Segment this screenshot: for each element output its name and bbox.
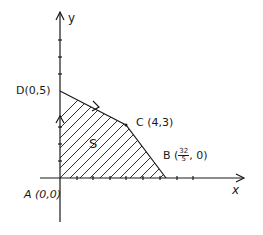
vertex-b-fraction: 325 <box>178 148 189 163</box>
vertex-c-label: C (4,3) <box>136 117 173 128</box>
vertex-a-label: A (0,0) <box>24 189 61 200</box>
vertex-c-dot <box>125 124 128 127</box>
x-axis <box>40 174 244 182</box>
fraction-denominator: 5 <box>178 156 189 163</box>
x-axis-label: x <box>232 184 239 196</box>
region-label: S <box>89 137 97 150</box>
vertex-d-label: D(0,5) <box>16 85 51 96</box>
direction-arrow-icon <box>92 101 99 111</box>
vertex-b-prefix: B ( <box>163 149 178 162</box>
y-axis-label: y <box>68 12 75 24</box>
hatched-region <box>0 98 263 198</box>
vertex-b-label: B (325, 0) <box>163 148 208 163</box>
vertex-b-suffix: , 0) <box>189 149 207 162</box>
